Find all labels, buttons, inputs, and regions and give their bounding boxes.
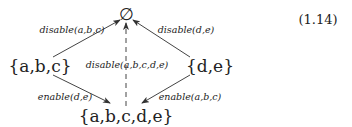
label-enable-de: enable(d,e) [38, 91, 93, 102]
label-disable-abc: disable(a,b,c) [40, 24, 105, 35]
label-disable-abcde: disable(a,b,c,d,e) [86, 59, 169, 70]
equation-number: (1.14) [298, 12, 337, 27]
label-disable-de: disable(d,e) [158, 24, 215, 35]
commutative-diagram: ∅ {a,b,c} {d,e} {a,b,c,d,e} disable(a,b,… [0, 0, 352, 127]
node-empty-set: ∅ [119, 4, 134, 24]
label-enable-abc: enable(a,b,c) [159, 91, 222, 102]
node-abcde: {a,b,c,d,e} [79, 106, 174, 126]
node-abc: {a,b,c} [9, 56, 72, 76]
node-de: {d,e} [186, 56, 234, 76]
